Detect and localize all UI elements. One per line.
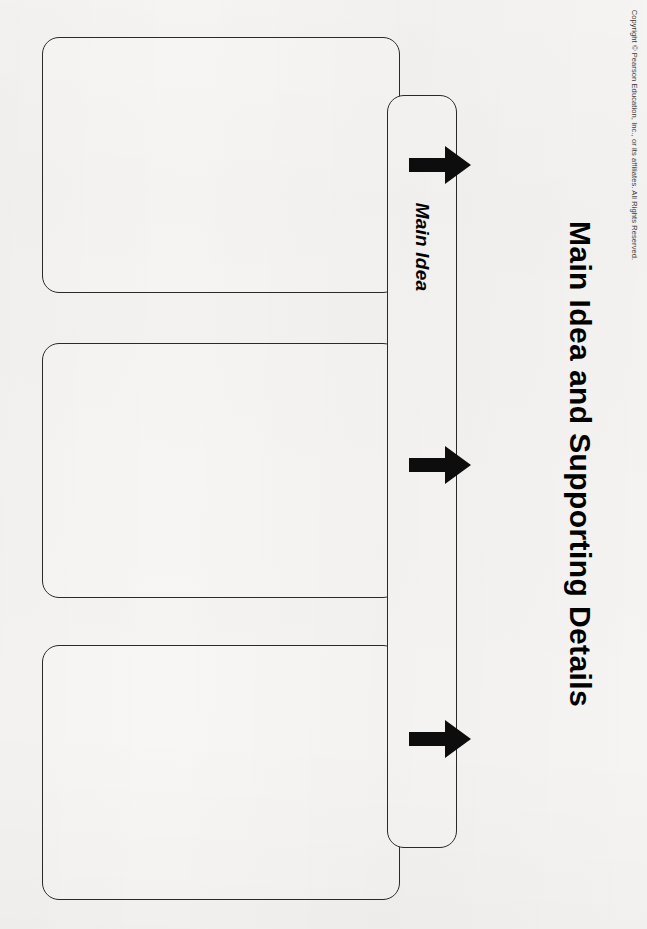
copyright-notice: Copyright © Pearson Education, Inc., or … xyxy=(630,10,639,261)
supporting-detail-box-1[interactable] xyxy=(42,37,400,293)
supporting-detail-box-3[interactable] xyxy=(42,645,400,900)
arrow-right-icon-2 xyxy=(409,442,471,488)
worksheet-page: Supporting Details Main Idea Main Idea a… xyxy=(0,0,647,929)
page-title: Main Idea and Supporting Details xyxy=(563,221,597,707)
arrow-right-icon-1 xyxy=(409,142,471,188)
arrow-right-icon-3 xyxy=(409,716,471,762)
supporting-detail-box-2[interactable] xyxy=(42,343,400,598)
main-idea-label: Main Idea xyxy=(411,203,433,291)
